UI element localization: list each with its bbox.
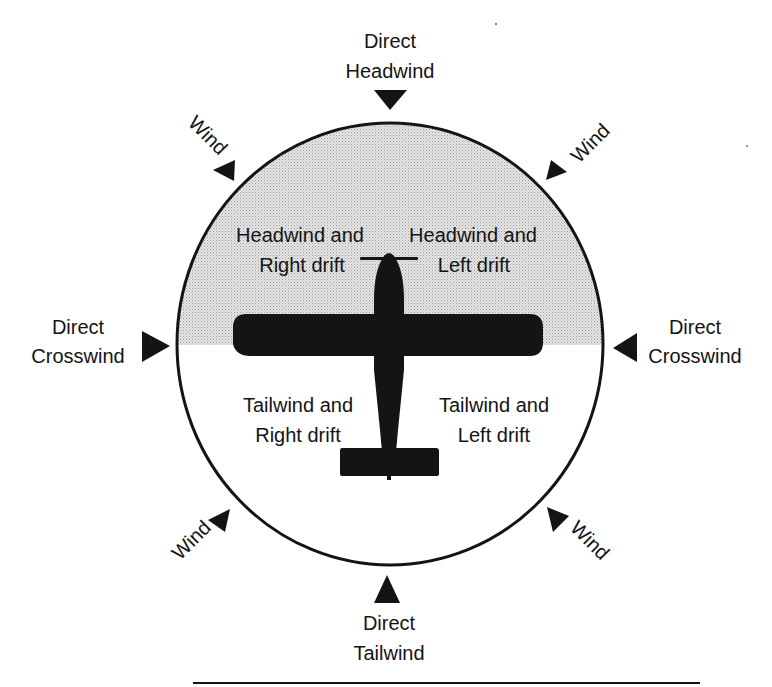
upper-left-quadrant-label: Headwind and bbox=[236, 224, 364, 246]
wind-bottom-left: Wind bbox=[167, 509, 230, 564]
wind-diagram: Direct Headwind Direct Crosswind Direct … bbox=[0, 0, 772, 687]
lower-right-quadrant-label: Tailwind and bbox=[439, 394, 549, 416]
direct-tailwind-label: Direct bbox=[363, 612, 416, 634]
direct-tailwind-label-line2: Tailwind bbox=[353, 642, 424, 664]
direct-headwind-label-line2: Headwind bbox=[346, 60, 435, 82]
lower-left-quadrant-label: Tailwind and bbox=[243, 394, 353, 416]
wind-bottom-right: Wind bbox=[547, 507, 614, 564]
lower-right-quadrant-label-line2: Left drift bbox=[458, 424, 531, 446]
direct-crosswind-right-label-line2: Crosswind bbox=[648, 345, 741, 367]
upper-right-quadrant-label: Headwind and bbox=[409, 224, 537, 246]
wind-bottom-left-label: Wind bbox=[167, 516, 215, 564]
lower-left-quadrant-label-line2: Right drift bbox=[255, 424, 341, 446]
upper-right-quadrant-label-line2: Left drift bbox=[438, 254, 511, 276]
headwind-arrow-icon bbox=[374, 90, 407, 110]
direct-headwind-label: Direct bbox=[364, 30, 417, 52]
wind-top-left-arrow-icon bbox=[213, 160, 235, 181]
wind-top-left: Wind bbox=[184, 111, 235, 181]
wind-bottom-right-label: Wind bbox=[566, 516, 614, 564]
wind-top-right: Wind bbox=[546, 119, 614, 180]
crosswind-left-arrow-icon bbox=[142, 331, 170, 362]
direct-crosswind-right-label: Direct bbox=[669, 316, 722, 338]
upper-left-quadrant-label-line2: Right drift bbox=[259, 254, 345, 276]
wind-top-left-label: Wind bbox=[184, 111, 232, 159]
direct-crosswind-left-label-line2: Crosswind bbox=[31, 345, 124, 367]
speck bbox=[495, 23, 497, 25]
direct-crosswind-left-label: Direct bbox=[52, 316, 105, 338]
wind-top-right-arrow-icon bbox=[546, 160, 567, 180]
tailwind-arrow-icon bbox=[374, 575, 400, 603]
crosswind-right-arrow-icon bbox=[613, 333, 637, 362]
wind-bottom-right-arrow-icon bbox=[547, 507, 569, 532]
wind-top-right-label: Wind bbox=[566, 119, 614, 167]
speck bbox=[746, 145, 748, 147]
